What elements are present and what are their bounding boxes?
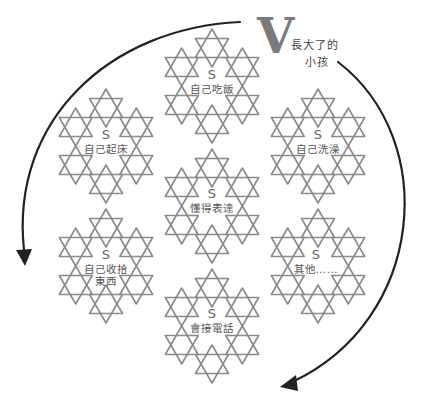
left-arrowhead-icon [16, 249, 32, 266]
cluster-label-lower-right: S 其他…… [294, 248, 339, 275]
cluster-s-marker: S [190, 68, 234, 83]
cluster-label-bottom: S 會接電話 [190, 307, 234, 334]
hexagram-star-icon [196, 269, 229, 307]
title-line-2: 小孩 [291, 55, 339, 72]
hexagram-star-icon [196, 225, 229, 263]
cluster-label-center: S 懂得表達 [190, 187, 234, 214]
cluster-s-marker: S [296, 128, 340, 143]
cluster-label-upper-left: S 自己起床 [84, 128, 128, 155]
cluster-text: 自己起床 [84, 143, 128, 155]
cluster-text: 自己吃飯 [190, 83, 234, 95]
hexagram-star-icon [90, 89, 123, 127]
cluster-s-marker: S [84, 128, 128, 143]
title-line-1: 長大了的 [291, 38, 339, 55]
hexagram-star-icon [302, 165, 335, 203]
hexagram-star-icon [302, 89, 335, 127]
hexagram-star-icon [90, 285, 123, 323]
hexagram-star-icon [90, 165, 123, 203]
hexagram-star-icon [196, 345, 229, 383]
cluster-text: 自己收拾 [84, 263, 128, 275]
cluster-s-marker: S [294, 248, 339, 263]
cluster-text: 自己洗澡 [296, 143, 340, 155]
title-big-letter: V [257, 12, 294, 60]
cluster-s-marker: S [84, 248, 128, 263]
right-arrowhead-icon [280, 375, 298, 391]
hexagram-star-icon [196, 149, 229, 187]
title-caption: 長大了的 小孩 [291, 38, 339, 71]
cluster-text: 會接電話 [190, 322, 234, 334]
cluster-label-lower-left: S 自己收拾 東西 [84, 248, 128, 287]
hexagram-star-icon [196, 105, 229, 143]
cluster-s-marker: S [190, 187, 234, 202]
cluster-label-top: S 自己吃飯 [190, 68, 234, 95]
cluster-text: 其他…… [294, 263, 339, 275]
cluster-text: 懂得表達 [190, 202, 234, 214]
hexagram-star-icon [90, 209, 123, 247]
cluster-text-line-2: 東西 [84, 275, 128, 287]
cluster-s-marker: S [190, 307, 234, 322]
hexagram-star-icon [302, 209, 335, 247]
cluster-label-upper-right: S 自己洗澡 [296, 128, 340, 155]
hexagram-star-icon [196, 29, 229, 67]
hexagram-star-icon [302, 285, 335, 323]
